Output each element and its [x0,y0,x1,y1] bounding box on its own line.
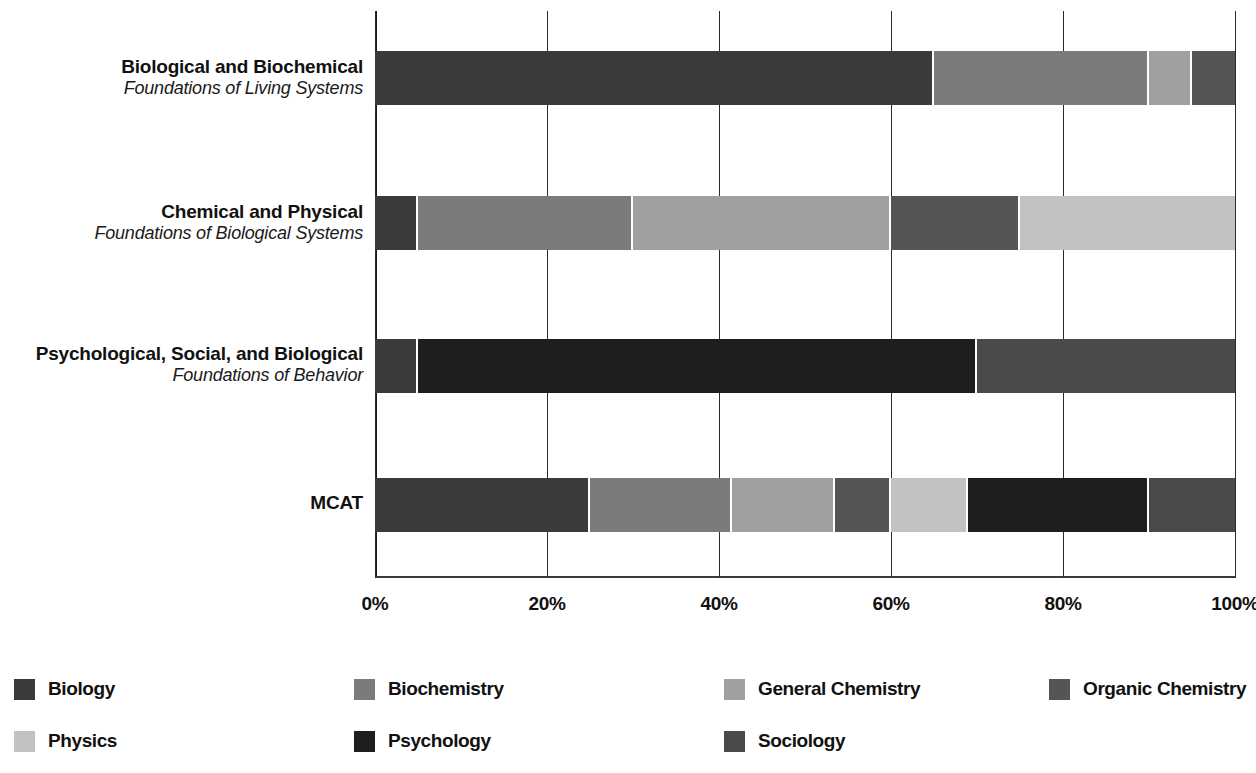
legend-label: Sociology [758,730,845,752]
legend-label: Physics [48,730,117,752]
bar-segment-biology [375,51,934,105]
stacked-bar [375,478,1235,532]
legend-swatch-icon [14,731,35,752]
bar-segment-biochemistry [590,478,732,532]
legend-item-sociology[interactable]: Sociology [724,730,845,752]
bar-segment-psychology [968,478,1149,532]
category-title: Biological and Biochemical [0,56,363,78]
legend-label: Biology [48,678,115,700]
x-tick-label: 80% [1044,593,1081,615]
x-tick-label: 60% [872,593,909,615]
bar-segment-general-chemistry [732,478,835,532]
stacked-bar [375,196,1235,250]
category-subtitle: Foundations of Living Systems [0,78,363,99]
legend-item-psychology[interactable]: Psychology [354,730,491,752]
legend-item-general-chemistry[interactable]: General Chemistry [724,678,920,700]
bar-segment-biochemistry [934,51,1149,105]
bar-segment-organic-chemistry [1192,51,1235,105]
x-tick-label: 40% [700,593,737,615]
category-label: Psychological, Social, and BiologicalFou… [0,343,363,386]
bar-segment-biology [375,478,590,532]
bar-segment-sociology [1149,478,1235,532]
category-subtitle: Foundations of Biological Systems [0,223,363,244]
bar-segment-psychology [418,339,977,393]
bar-segment-biology [375,339,418,393]
plot-area: 0%20%40%60%80%100% [375,11,1235,578]
category-label: Chemical and PhysicalFoundations of Biol… [0,201,363,244]
stacked-bar [375,51,1235,105]
legend-item-organic-chemistry[interactable]: Organic Chemistry [1049,678,1246,700]
bar-segment-organic-chemistry [891,196,1020,250]
legend-label: Psychology [388,730,491,752]
bar-segment-physics [891,478,968,532]
bar-segment-biochemistry [418,196,633,250]
legend-label: General Chemistry [758,678,920,700]
x-tick-label: 100% [1211,593,1256,615]
legend-swatch-icon [354,679,375,700]
bar-segment-organic-chemistry [835,478,891,532]
category-title: MCAT [0,492,363,514]
bar-segment-general-chemistry [1149,51,1192,105]
chart-legend: BiologyBiochemistryGeneral ChemistryOrga… [14,668,1244,768]
x-axis-line [375,576,1235,578]
legend-label: Biochemistry [388,678,504,700]
category-title: Chemical and Physical [0,201,363,223]
category-title: Psychological, Social, and Biological [0,343,363,365]
stacked-bar [375,339,1235,393]
bar-segment-physics [1020,196,1235,250]
legend-swatch-icon [14,679,35,700]
legend-label: Organic Chemistry [1083,678,1246,700]
legend-swatch-icon [354,731,375,752]
legend-item-biochemistry[interactable]: Biochemistry [354,678,504,700]
bar-segment-general-chemistry [633,196,891,250]
legend-swatch-icon [724,731,745,752]
legend-item-physics[interactable]: Physics [14,730,117,752]
bar-segment-sociology [977,339,1235,393]
bar-segment-biology [375,196,418,250]
category-label: MCAT [0,492,363,514]
category-subtitle: Foundations of Behavior [0,365,363,386]
legend-swatch-icon [1049,679,1070,700]
chart-root: Biological and BiochemicalFoundations of… [0,0,1256,773]
x-tick-label: 0% [362,593,389,615]
legend-swatch-icon [724,679,745,700]
x-tick-label: 20% [528,593,565,615]
gridline-100 [1235,11,1236,578]
legend-item-biology[interactable]: Biology [14,678,115,700]
category-label: Biological and BiochemicalFoundations of… [0,56,363,99]
